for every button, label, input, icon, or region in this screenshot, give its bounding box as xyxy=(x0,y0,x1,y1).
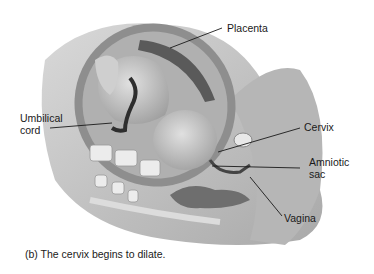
figure-caption: (b) The cervix begins to dilate. xyxy=(25,248,165,260)
diagram-figure: Placenta Umbilical cord Cervix Amniotic … xyxy=(0,0,374,274)
label-cervix: Cervix xyxy=(304,121,334,133)
fetus-head xyxy=(153,110,217,170)
label-umbilical-cord: Umbilical cord xyxy=(20,112,63,136)
childbirth-illustration xyxy=(0,0,374,274)
label-placenta: Placenta xyxy=(227,22,268,34)
label-amniotic-sac: Amniotic sac xyxy=(309,156,349,180)
label-vagina: Vagina xyxy=(284,212,316,224)
